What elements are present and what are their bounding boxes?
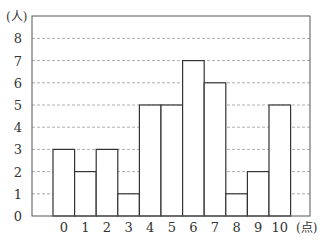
- x-tick-label: 4: [146, 220, 154, 235]
- y-tick-label: 0: [14, 209, 22, 224]
- bar: [204, 83, 226, 216]
- x-axis-ticks: 012345678910: [60, 220, 288, 235]
- x-tick-label: 5: [168, 220, 176, 235]
- x-tick-label: 7: [211, 220, 219, 235]
- bar: [53, 149, 75, 216]
- y-tick-label: 8: [14, 31, 22, 46]
- bar: [226, 194, 248, 216]
- y-tick-label: 2: [14, 165, 22, 180]
- x-tick-label: 10: [272, 220, 289, 235]
- y-tick-label: 3: [14, 142, 22, 157]
- x-axis-unit: (点): [296, 221, 317, 235]
- x-tick-label: 8: [232, 220, 240, 235]
- x-tick-label: 1: [81, 220, 89, 235]
- x-tick-label: 3: [124, 220, 132, 235]
- bar: [139, 105, 161, 216]
- x-tick-label: 2: [103, 220, 111, 235]
- y-tick-label: 7: [14, 54, 22, 69]
- x-tick-label: 6: [189, 220, 197, 235]
- bar: [96, 149, 118, 216]
- y-tick-label: 5: [14, 98, 22, 113]
- histogram-chart: 012345678 012345678910 (人) (点): [0, 0, 328, 243]
- x-tick-label: 9: [254, 220, 262, 235]
- bar: [161, 105, 183, 216]
- bar: [118, 194, 140, 216]
- y-tick-label: 1: [14, 187, 22, 202]
- bars: [53, 61, 291, 216]
- y-tick-label: 4: [14, 120, 22, 135]
- y-axis-unit: (人): [6, 10, 27, 24]
- bar: [75, 172, 97, 216]
- bar: [247, 172, 269, 216]
- bar: [269, 105, 291, 216]
- y-axis-ticks: 012345678: [14, 31, 22, 224]
- y-tick-label: 6: [14, 76, 22, 91]
- bar: [183, 61, 205, 216]
- x-tick-label: 0: [60, 220, 68, 235]
